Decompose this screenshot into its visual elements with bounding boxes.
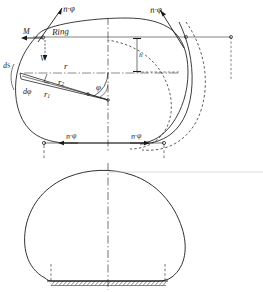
label-force-bottom-right: n·φ [131, 132, 142, 141]
label-force-top-right: n·φ [150, 5, 162, 15]
base-support-hatching [47, 281, 168, 286]
label-moment: M [23, 28, 30, 36]
label-force-top-left: n·φ [63, 4, 75, 14]
label-ring: Ring [52, 27, 69, 37]
label-angle-phi: φ [96, 83, 101, 92]
shell-tail-inner-curve [140, 22, 192, 144]
bottom-dimension-line [42, 141, 165, 158]
ring-node-dot [41, 36, 44, 39]
element-arc-left [11, 64, 14, 90]
label-radius-r2-subscript: 2 [61, 81, 64, 87]
label-height-h: h [139, 52, 143, 59]
label-element-ds: ds [3, 61, 11, 70]
label-radius-r1: r1 [44, 90, 50, 100]
label-angle-dphi: dφ [23, 88, 31, 96]
upper-right-dashed-frame [137, 36, 233, 81]
label-radius-r2: r2 [58, 78, 64, 88]
diagram-canvas: n·φ n·φ M Ring V ds r r2 r1 dφ φ h n·φ n… [0, 0, 263, 292]
label-radius-r1-subscript: 1 [47, 93, 50, 99]
label-radius-r: r [64, 62, 68, 71]
diagram-vector-layer [0, 0, 263, 292]
force-arrow-top-right [160, 10, 184, 48]
label-force-bottom-left: n·φ [66, 132, 77, 141]
dome-outline [25, 170, 186, 281]
label-shear: V [40, 55, 45, 63]
shell-tail-outer-dashed [142, 22, 205, 150]
